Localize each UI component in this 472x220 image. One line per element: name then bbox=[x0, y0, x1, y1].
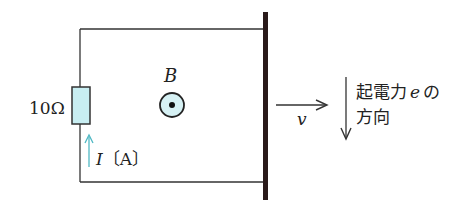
current-arrow-icon bbox=[85, 135, 93, 167]
velocity-label: v bbox=[297, 109, 307, 129]
conducting-rod bbox=[263, 12, 268, 200]
current-label: I〔A〕 bbox=[96, 145, 149, 170]
current-unit: 〔A〕 bbox=[103, 149, 149, 169]
resistor bbox=[72, 87, 90, 124]
current-symbol: I bbox=[96, 149, 103, 169]
emf-particle: の bbox=[423, 82, 440, 102]
emf-label: 起電力eの 方向 bbox=[356, 80, 440, 130]
emf-direction-arrow-icon bbox=[341, 77, 351, 139]
emf-text: 起電力 bbox=[356, 82, 407, 102]
emf-label-line2: 方向 bbox=[356, 105, 440, 130]
emf-symbol: e bbox=[410, 82, 420, 102]
resistor-label: 10Ω bbox=[29, 98, 65, 118]
emf-label-line1: 起電力eの bbox=[356, 80, 440, 105]
magnetic-field-out-of-page-icon bbox=[160, 93, 184, 117]
magnetic-field-label: B bbox=[164, 65, 177, 86]
